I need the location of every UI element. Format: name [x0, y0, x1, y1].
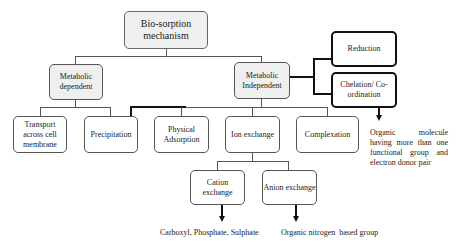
connector	[217, 161, 289, 162]
connector	[130, 106, 132, 116]
node-label: Physical Adsorption	[155, 125, 208, 145]
connector	[110, 107, 111, 116]
node-transport-across-cell-membrane: Transport across cell membrane	[13, 116, 67, 153]
connector	[261, 99, 262, 107]
node-cation-exchange: Cation exchange	[190, 170, 245, 205]
arrow-down-icon	[219, 216, 225, 222]
connector	[181, 107, 182, 116]
note-cation: Carboxyl, Phosphate, Sulphate	[160, 228, 259, 238]
note-anion: Organic nitrogen based group	[281, 228, 378, 238]
node-label: Anion exchange	[263, 183, 315, 193]
node-label: Metabolic dependent	[50, 72, 102, 92]
connector	[217, 161, 218, 170]
node-label: Precipitation	[91, 130, 132, 140]
node-complexation: Complexation	[296, 116, 359, 153]
node-chelation-coordination: Chelation/ Co-ordination	[331, 72, 397, 108]
node-label: Complexation	[305, 130, 350, 140]
node-label: Chelation/ Co-ordination	[333, 80, 395, 100]
node-label: Ion exchange	[231, 130, 274, 140]
connector	[313, 58, 331, 60]
connector	[313, 58, 315, 95]
connector	[313, 93, 331, 95]
node-bio-sorption-mechanism: Bio-sorption mechanism	[124, 11, 208, 49]
connector	[327, 107, 328, 116]
connector	[75, 56, 261, 57]
note-chelation: Organic molecule having more than one fu…	[370, 128, 448, 168]
connector	[40, 107, 111, 108]
connector	[288, 161, 289, 170]
connector	[166, 49, 167, 56]
node-metabolic-dependent: Metabolic dependent	[49, 64, 103, 100]
node-ion-exchange: Ion exchange	[225, 116, 280, 153]
node-label: Cation exchange	[191, 178, 244, 198]
connector	[40, 107, 41, 116]
connector	[75, 56, 76, 64]
connector	[186, 107, 327, 108]
node-anion-exchange: Anion exchange	[262, 170, 317, 205]
arrow-down-icon	[293, 216, 299, 222]
node-physical-adsorption: Physical Adsorption	[154, 116, 209, 153]
connector	[252, 107, 253, 116]
arrow-down-icon	[376, 115, 382, 121]
connector	[252, 153, 253, 161]
node-metabolic-independent: Metabolic Independent	[234, 62, 290, 99]
connector	[75, 100, 76, 107]
connector	[130, 106, 186, 108]
node-label: Reduction	[348, 44, 381, 54]
node-precipitation: Precipitation	[84, 116, 138, 153]
node-label: Metabolic Independent	[235, 71, 289, 91]
node-reduction: Reduction	[331, 31, 397, 67]
connector	[290, 76, 313, 78]
node-label: Transport across cell membrane	[14, 120, 66, 150]
node-label: Bio-sorption mechanism	[125, 18, 207, 42]
